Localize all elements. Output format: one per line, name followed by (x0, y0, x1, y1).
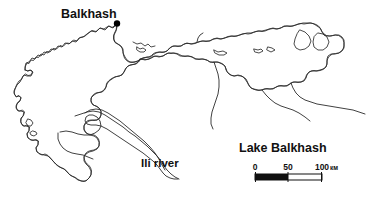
scale-segment-50-100 (288, 174, 322, 180)
map-title: Lake Balkhash (239, 141, 327, 155)
city-label-balkhash: Balkhash (61, 7, 117, 21)
map-figure: Balkhash Ili river Lake Balkhash 0 50 10… (0, 0, 372, 205)
scale-segment-0-50 (255, 174, 288, 180)
scale-tick-label-0: 0 (253, 162, 258, 172)
scale-tick-label-50: 50 (283, 162, 293, 172)
river-label-ili: Ili river (141, 157, 179, 169)
lake-balkhash-map: Balkhash Ili river Lake Balkhash 0 50 10… (0, 0, 372, 205)
balkhash-city-dot (114, 20, 120, 26)
scale-tick-label-100: 100 (315, 162, 329, 172)
scale-unit-label: км (330, 164, 338, 171)
